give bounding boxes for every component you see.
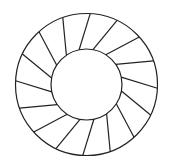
spoke-line [93,20,117,49]
spoke-line [116,104,134,137]
spoke-line [116,61,154,65]
spoke-line [63,18,67,56]
spoke-line [106,37,139,55]
inner-circle [51,49,122,120]
spoke-line [107,114,111,152]
spoke-line [83,119,94,155]
outer-circle [16,14,158,156]
annulus-diagram [0,0,170,166]
spoke-line [20,105,58,109]
diagram-canvas [0,0,170,166]
spoke-line [16,81,52,92]
spoke-line [121,77,157,88]
spokes-group [16,14,158,156]
spoke-line [34,114,67,132]
spoke-line [56,119,80,148]
spoke-line [39,32,57,65]
spoke-line [79,14,90,50]
spoke-line [121,91,150,115]
spoke-line [22,54,51,78]
